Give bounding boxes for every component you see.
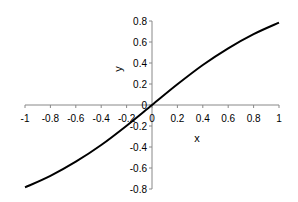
x-tick-label: 0.6 xyxy=(221,113,235,124)
y-tick-label: -0.8 xyxy=(130,184,148,195)
y-tick-label: -0.4 xyxy=(130,142,148,153)
chart: -1-0.8-0.6-0.4-0.200.20.40.60.81-0.8-0.6… xyxy=(0,0,298,202)
y-tick-label: 0.6 xyxy=(133,37,147,48)
y-tick-label: 0.4 xyxy=(133,58,147,69)
x-tick-label: 0.4 xyxy=(196,113,210,124)
x-tick-label: -0.4 xyxy=(93,113,111,124)
x-tick-label: 0.8 xyxy=(247,113,261,124)
y-tick-label: 0.2 xyxy=(133,79,147,90)
x-tick-label: -1 xyxy=(21,113,30,124)
x-axis-label: x xyxy=(194,132,200,144)
y-tick-label: 0.8 xyxy=(133,16,147,27)
y-axis-label: y xyxy=(112,66,124,72)
x-tick-label: 0.2 xyxy=(170,113,184,124)
x-tick-label: -0.6 xyxy=(67,113,85,124)
x-tick-label: -0.8 xyxy=(42,113,60,124)
x-tick-label: 0 xyxy=(149,113,155,124)
y-tick-label: -0.6 xyxy=(130,163,148,174)
x-tick-label: 1 xyxy=(276,113,282,124)
